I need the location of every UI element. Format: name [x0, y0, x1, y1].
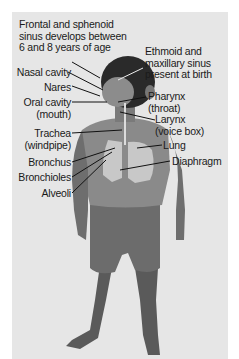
label-frontal-sphenoid-sinus: Frontal and sphenoid sinus develops betw… [19, 19, 127, 54]
label-diaphragm: Diaphragm [172, 156, 222, 168]
label-bronchus: Bronchus [28, 157, 71, 169]
label-alveoli: Alveoli [41, 188, 71, 200]
label-line: (windpipe) [25, 140, 71, 152]
label-line: present at birth [145, 69, 212, 81]
label-line: Frontal and sphenoid [19, 19, 127, 31]
label-bronchioles: Bronchioles [18, 172, 71, 184]
label-lung: Lung [163, 140, 186, 152]
label-oral-cavity: Oral cavity (mouth) [24, 97, 71, 120]
label-line: Larynx [155, 114, 204, 126]
label-larynx: Larynx (voice box) [155, 114, 204, 137]
label-ethmoid-maxillary-sinus: Ethmoid and maxillary sinus present at b… [145, 46, 212, 81]
label-line: Trachea [25, 128, 71, 140]
label-trachea: Trachea (windpipe) [25, 128, 71, 151]
label-line: Pharynx [148, 91, 185, 103]
label-line: (mouth) [24, 109, 71, 121]
label-line: Oral cavity [24, 97, 71, 109]
label-line: (voice box) [155, 126, 204, 138]
label-pharynx: Pharynx (throat) [148, 91, 185, 114]
label-nares: Nares [44, 82, 71, 94]
label-line: Ethmoid and [145, 46, 212, 58]
label-nasal-cavity: Nasal cavity [17, 67, 71, 79]
label-line: 6 and 8 years of age [19, 42, 127, 54]
